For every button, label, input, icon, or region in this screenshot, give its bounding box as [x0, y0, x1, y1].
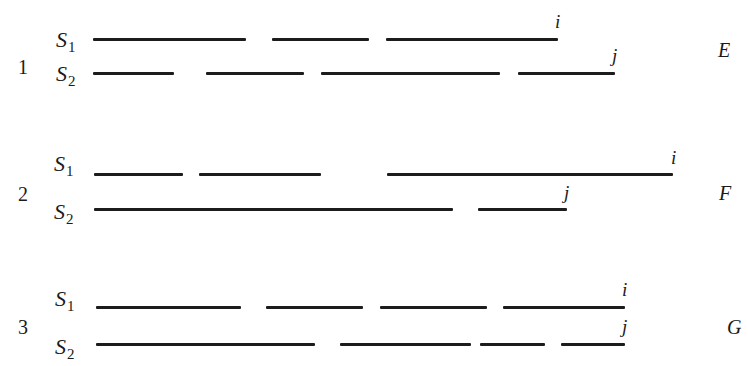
sequence-name: S — [55, 334, 66, 359]
sequence-segment — [94, 173, 183, 176]
sequence-label: S1 — [55, 288, 75, 314]
sequence-segment — [321, 72, 500, 75]
case-label: F — [719, 183, 731, 203]
sequence-segment — [518, 72, 615, 75]
case-label: G — [727, 317, 741, 337]
sequence-segment — [199, 173, 321, 176]
case-number: 3 — [18, 317, 28, 337]
case-number: 1 — [18, 57, 28, 77]
sequence-segment — [93, 38, 246, 41]
end-position-label: i — [622, 280, 627, 299]
sequence-label: S2 — [55, 336, 75, 362]
sequence-alignment-diagram: 1ES1iS2j2FS1iS2j3GS1iS2j — [0, 0, 748, 366]
sequence-subscript: 2 — [67, 346, 75, 362]
end-position-label: i — [555, 12, 560, 31]
end-position-label: j — [612, 46, 617, 65]
sequence-segment — [480, 343, 545, 346]
sequence-name: S — [56, 61, 67, 86]
sequence-label: S1 — [56, 29, 76, 55]
sequence-name: S — [54, 199, 65, 224]
sequence-segment — [340, 343, 471, 346]
sequence-label: S2 — [54, 201, 74, 227]
sequence-segment — [561, 343, 625, 346]
sequence-name: S — [55, 286, 66, 311]
end-position-label: j — [564, 183, 569, 202]
sequence-segment — [96, 306, 241, 309]
case-label: E — [718, 40, 730, 60]
sequence-segment — [386, 38, 558, 41]
sequence-subscript: 2 — [68, 73, 76, 89]
sequence-segment — [478, 208, 567, 211]
sequence-subscript: 1 — [68, 39, 76, 55]
case-number: 2 — [18, 184, 28, 204]
sequence-label: S1 — [54, 153, 74, 179]
sequence-segment — [93, 72, 174, 75]
sequence-subscript: 1 — [67, 298, 75, 314]
sequence-segment — [380, 306, 487, 309]
sequence-segment — [266, 306, 363, 309]
sequence-segment — [94, 208, 453, 211]
sequence-name: S — [56, 27, 67, 52]
sequence-segment — [272, 38, 369, 41]
sequence-subscript: 2 — [66, 211, 74, 227]
sequence-label: S2 — [56, 63, 76, 89]
sequence-segment — [96, 343, 315, 346]
sequence-segment — [206, 72, 304, 75]
sequence-name: S — [54, 151, 65, 176]
end-position-label: i — [671, 148, 676, 167]
sequence-segment — [503, 306, 625, 309]
end-position-label: j — [622, 317, 627, 336]
sequence-subscript: 1 — [66, 163, 74, 179]
sequence-segment — [387, 173, 673, 176]
